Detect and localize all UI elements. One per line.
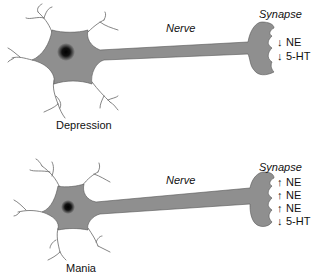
arrow-up-icon: ↑ bbox=[277, 189, 286, 202]
state-label-depression: Depression bbox=[56, 119, 112, 131]
arrow-down-icon: ↓ bbox=[277, 50, 286, 63]
nucleus bbox=[57, 43, 75, 61]
mania-neuron bbox=[14, 159, 274, 260]
arrow-down-icon: ↓ bbox=[277, 36, 286, 49]
neurotransmitter-ne: ↓NE bbox=[277, 36, 301, 49]
neurotransmitter-5ht: ↓5-HT bbox=[277, 50, 310, 63]
nerve-label-depression: Nerve bbox=[166, 22, 195, 34]
state-label-mania: Mania bbox=[66, 262, 96, 274]
neurotransmitter-5ht: ↓5-HT bbox=[277, 215, 310, 228]
synapse-label-depression: Synapse bbox=[259, 8, 302, 20]
depression-neuron bbox=[8, 4, 274, 118]
arrow-up-icon: ↑ bbox=[277, 176, 286, 189]
arrow-down-icon: ↓ bbox=[277, 215, 286, 228]
soma bbox=[42, 172, 274, 230]
neurotransmitter-ne: ↑NE bbox=[277, 176, 301, 189]
synapse-label-mania: Synapse bbox=[259, 161, 302, 173]
neurotransmitter-ne: ↑NE bbox=[277, 202, 301, 215]
nerve-label-mania: Nerve bbox=[166, 174, 195, 186]
neurotransmitter-ne: ↑NE bbox=[277, 189, 301, 202]
neuron-diagram bbox=[0, 0, 314, 279]
arrow-up-icon: ↑ bbox=[277, 202, 286, 215]
nucleus bbox=[61, 200, 75, 214]
